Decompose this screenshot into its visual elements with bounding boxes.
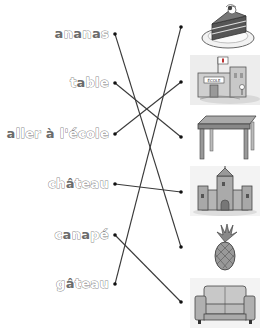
connection-line-table-table (115, 83, 181, 137)
connection-dot[interactable] (113, 81, 117, 85)
sofa-icon (190, 278, 260, 328)
connection-dot[interactable] (113, 32, 117, 36)
connection-dot[interactable] (179, 245, 183, 249)
pineapple-icon (190, 222, 260, 272)
connection-dot[interactable] (179, 190, 183, 194)
table-icon (190, 112, 260, 162)
pineapple-picture (190, 222, 260, 272)
cake-picture (190, 2, 260, 52)
table-picture (190, 112, 260, 162)
castle-picture (190, 166, 260, 216)
school-icon: ÉCOLE (190, 55, 260, 105)
connection-dot[interactable] (113, 282, 117, 286)
connection-dot[interactable] (179, 25, 183, 29)
connection-dot[interactable] (179, 135, 183, 139)
connection-line-chateau-castle (115, 184, 181, 192)
school-sign-text: ÉCOLE (207, 78, 221, 83)
cake-icon (190, 2, 260, 52)
connection-dot[interactable] (179, 80, 183, 84)
castle-icon (190, 166, 260, 216)
connection-dot[interactable] (113, 132, 117, 136)
connection-dot[interactable] (113, 233, 117, 237)
connection-line-aller-a-lecole-school (115, 82, 181, 134)
school-picture: ÉCOLE (190, 55, 260, 105)
connection-dot[interactable] (179, 300, 183, 304)
sofa-picture (190, 278, 260, 328)
connection-dot[interactable] (113, 182, 117, 186)
